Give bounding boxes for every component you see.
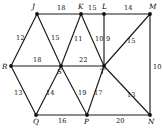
edge-weight-label: 13 (127, 92, 135, 99)
graph-vertex (35, 12, 39, 16)
vertex-label: P (84, 118, 89, 125)
edge-weight-label: 15 (51, 35, 59, 42)
vertex-label: Q (33, 118, 39, 125)
vertex-label: M (149, 3, 156, 10)
edge-weight-label: 17 (94, 90, 102, 97)
edge-weight-label: 15 (88, 5, 96, 12)
vertex-label: N (148, 118, 154, 125)
graph-vertex (148, 12, 152, 16)
vertex-label: R (2, 63, 7, 70)
edge-weight-label: 18 (57, 5, 65, 12)
edge-weight-label: 14 (124, 5, 132, 12)
graph-vertex (9, 64, 13, 68)
graph-canvas (0, 0, 163, 130)
edge-weight-label: 15 (127, 38, 135, 45)
edge-weight-label: 12 (16, 35, 24, 42)
edge-weight-label: 10 (153, 64, 161, 71)
vertex-label: J (32, 3, 35, 10)
vertex-label: L (102, 3, 107, 10)
edge-weight-label: 22 (79, 57, 87, 64)
edge-weight-label: 16 (58, 118, 66, 125)
edge-weight-label: 18 (33, 57, 41, 64)
edge-weight-label: 13 (14, 90, 22, 97)
vertex-label: K (78, 3, 83, 10)
edge-weight-label: 14 (46, 90, 54, 97)
weighted-graph-diagram: 1815141822162012151110915101314191713JKL… (0, 0, 163, 130)
vertex-label: T (100, 68, 105, 75)
vertex-label: S (57, 68, 62, 75)
edge-layer (11, 14, 150, 115)
edge-weight-label: 11 (74, 36, 82, 43)
edge-weight-label: 20 (116, 118, 124, 125)
graph-vertex (79, 12, 83, 16)
edge-weight-label: 9 (106, 36, 110, 43)
edge-weight-label: 10 (95, 36, 103, 43)
edge-weight-label: 19 (78, 90, 86, 97)
graph-vertex (102, 12, 106, 16)
